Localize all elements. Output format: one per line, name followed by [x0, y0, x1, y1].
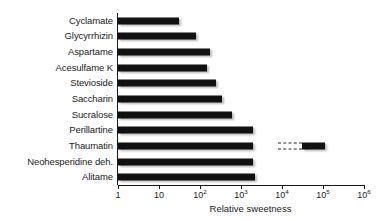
bar [118, 64, 207, 71]
x-tick [159, 185, 160, 189]
x-axis-title-text: Relative sweetness [210, 203, 292, 214]
x-tick [241, 185, 242, 189]
x-tick-label: 106 [357, 190, 370, 200]
bar-upper-segment [302, 142, 325, 149]
category-label: Saccharin [72, 94, 113, 104]
category-label: Neohesperidine deh. [27, 157, 113, 167]
category-label: Acesulfame K [56, 63, 113, 73]
x-tick [282, 185, 283, 189]
x-tick [323, 185, 324, 189]
x-tick-label: 103 [234, 190, 247, 200]
category-label: Stevioside [70, 78, 113, 88]
x-axis-title: Relative sweetness [0, 203, 381, 214]
y-axis-line [117, 13, 118, 185]
category-label: Cyclamate [69, 16, 113, 26]
sweetness-bar-chart: CyclamateGlycyrrhizinAspartameAcesulfame… [0, 0, 381, 221]
category-label: Aspartame [68, 47, 113, 57]
category-label: Thaumatin [69, 141, 113, 151]
x-tick-label: 1 [115, 190, 120, 200]
bar [118, 17, 179, 24]
category-label: Perillartine [69, 125, 113, 135]
x-tick [118, 185, 119, 189]
bar-range-connector [278, 142, 302, 149]
bar [118, 33, 196, 40]
bar [118, 142, 253, 149]
bar [118, 80, 216, 87]
bar [118, 96, 222, 103]
x-tick-label: 10 [154, 190, 164, 200]
bar [118, 111, 232, 118]
bar [118, 49, 210, 56]
category-label: Sucralose [72, 110, 113, 120]
plot-area [118, 13, 364, 185]
category-label: Alitame [82, 172, 113, 182]
x-tick [200, 185, 201, 189]
x-tick-label: 104 [275, 190, 288, 200]
x-tick-label: 105 [316, 190, 329, 200]
bar [118, 127, 253, 134]
x-tick [364, 185, 365, 189]
bar [118, 158, 253, 165]
x-tick-label: 102 [193, 190, 206, 200]
bar [118, 174, 255, 181]
category-label: Glycyrrhizin [65, 31, 113, 41]
